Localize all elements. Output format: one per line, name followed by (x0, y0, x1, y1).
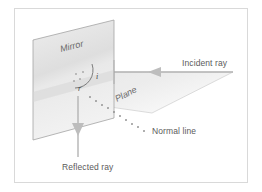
figure-root: Mirror Plane i r Incident ray Normal lin… (0, 0, 262, 192)
reflection-diagram: Mirror Plane i r Incident ray Normal lin… (0, 0, 262, 192)
reflected-ray-label: Reflected ray (62, 162, 114, 172)
reflected-ray-arrowhead (72, 123, 84, 136)
normal-line-label: Normal line (152, 126, 196, 136)
angle-of-incidence-label: i (96, 72, 98, 81)
incident-ray-label: Incident ray (182, 58, 228, 68)
